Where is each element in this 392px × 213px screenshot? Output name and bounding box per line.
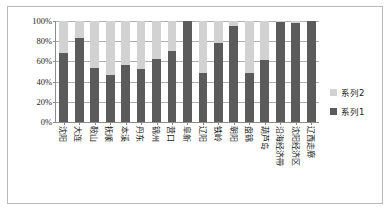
x-axis-label-slot: 营口 (164, 124, 180, 204)
bar-slot (133, 21, 148, 122)
legend-swatch-icon (330, 108, 337, 115)
bar-stack[interactable] (121, 21, 130, 122)
bar-segment-series1[interactable] (199, 73, 208, 122)
x-axis-label-slot: 沈阳经济区 (288, 124, 304, 204)
x-axis-tick-label: 大连 (73, 126, 84, 142)
bar-slot (195, 21, 210, 122)
bar-segment-series2[interactable] (137, 21, 146, 69)
bar-slot (149, 21, 164, 122)
x-axis-tick-label: 沿海经济带 (275, 126, 286, 166)
bar-segment-series1[interactable] (229, 26, 238, 122)
bar-segment-series1[interactable] (121, 65, 130, 122)
x-axis-labels: 沈阳大连鞍山抚顺本溪丹东锦州营口阜新辽阳铁岭朝阳盘锦葫芦岛沿海经济带沈阳经济区辽… (55, 124, 319, 204)
bar-segment-series2[interactable] (121, 21, 130, 65)
bar-stack[interactable] (90, 21, 99, 122)
bar-segment-series1[interactable] (214, 43, 223, 122)
bar-stack[interactable] (214, 21, 223, 122)
x-axis-tick-label: 鞍山 (88, 126, 99, 142)
bar-segment-series1[interactable] (183, 21, 192, 122)
bar-stack[interactable] (245, 21, 254, 122)
bar-slot (304, 21, 319, 122)
x-axis-label-slot: 辽阳 (195, 124, 211, 204)
legend-swatch-icon (330, 89, 337, 96)
bar-slot (164, 21, 179, 122)
bar-segment-series1[interactable] (245, 73, 254, 122)
bar-segment-series2[interactable] (90, 21, 99, 68)
x-axis-label-slot: 阜新 (179, 124, 195, 204)
legend-item[interactable]: 系列1 (330, 105, 386, 117)
bar-stack[interactable] (152, 21, 161, 122)
legend-label: 系列1 (341, 105, 364, 117)
y-axis-tick-label: 80% (36, 36, 52, 46)
bar-stack[interactable] (59, 21, 68, 122)
bar-segment-series1[interactable] (168, 51, 177, 122)
bar-segment-series1[interactable] (260, 60, 269, 122)
legend-item[interactable]: 系列2 (330, 86, 386, 98)
bar-segment-series1[interactable] (152, 59, 161, 122)
bar-segment-series2[interactable] (152, 21, 161, 59)
x-axis-label-slot: 沈阳 (55, 124, 71, 204)
bar-slot (288, 21, 303, 122)
bar-segment-series2[interactable] (260, 21, 269, 60)
bar-segment-series2[interactable] (59, 21, 68, 53)
x-axis-label-slot: 沿海经济带 (272, 124, 288, 204)
bar-slot (242, 21, 257, 122)
bar-slot (71, 21, 86, 122)
bar-stack[interactable] (183, 21, 192, 122)
bar-stack[interactable] (199, 21, 208, 122)
bar-segment-series1[interactable] (75, 38, 84, 122)
x-axis-label-slot: 锦州 (148, 124, 164, 204)
x-axis-tick-label: 沈阳经济区 (290, 126, 301, 166)
bar-segment-series1[interactable] (90, 68, 99, 122)
chart-container: 100%80%60%40%20%0% 沈阳大连鞍山抚顺本溪丹东锦州营口阜新辽阳铁… (7, 6, 383, 204)
bar-segment-series1[interactable] (59, 53, 68, 122)
x-axis-tick-label: 阜新 (182, 126, 193, 142)
x-axis-label-slot: 葫芦岛 (257, 124, 273, 204)
bar-slot (257, 21, 272, 122)
bar-segment-series1[interactable] (307, 21, 316, 122)
y-axis-tick-label: 0% (41, 117, 52, 127)
bar-segment-series1[interactable] (291, 23, 300, 122)
y-axis-tick-label: 40% (36, 77, 52, 87)
bar-slot (102, 21, 117, 122)
bar-segment-series1[interactable] (276, 22, 285, 122)
plot-area: 100%80%60%40%20%0% (55, 21, 319, 123)
bar-stack[interactable] (276, 21, 285, 122)
bar-slot (87, 21, 102, 122)
x-axis-label-slot: 大连 (71, 124, 87, 204)
bar-stack[interactable] (307, 21, 316, 122)
bar-segment-series1[interactable] (137, 69, 146, 122)
bar-stack[interactable] (168, 21, 177, 122)
bar-stack[interactable] (291, 21, 300, 122)
bar-segment-series2[interactable] (245, 21, 254, 73)
x-axis-tick-label: 本溪 (119, 126, 130, 142)
chart-legend: 系列2系列1 (330, 86, 386, 124)
legend-label: 系列2 (341, 86, 364, 98)
bar-stack[interactable] (229, 21, 238, 122)
x-axis-tick-label: 辽西走廊 (306, 126, 317, 158)
bar-segment-series2[interactable] (168, 21, 177, 51)
bar-slot (56, 21, 71, 122)
x-axis-tick-label: 辽阳 (197, 126, 208, 142)
x-axis-tick-label: 葫芦岛 (259, 126, 270, 150)
x-axis-label-slot: 本溪 (117, 124, 133, 204)
bar-slot (211, 21, 226, 122)
bar-segment-series2[interactable] (106, 21, 115, 75)
x-axis-label-slot: 盘锦 (241, 124, 257, 204)
bar-segment-series2[interactable] (75, 21, 84, 38)
bar-stack[interactable] (137, 21, 146, 122)
x-axis-tick-label: 盘锦 (244, 126, 255, 142)
bar-segment-series2[interactable] (214, 21, 223, 43)
y-axis-tick-label: 20% (36, 97, 52, 107)
bar-segment-series2[interactable] (199, 21, 208, 73)
x-axis-label-slot: 丹东 (133, 124, 149, 204)
bar-stack[interactable] (75, 21, 84, 122)
bar-stack[interactable] (106, 21, 115, 122)
x-axis-tick-label: 沈阳 (57, 126, 68, 142)
x-axis-label-slot: 朝阳 (226, 124, 242, 204)
x-axis-label-slot: 铁岭 (210, 124, 226, 204)
bar-series-group (56, 21, 319, 122)
bar-segment-series1[interactable] (106, 75, 115, 122)
bar-slot (273, 21, 288, 122)
bar-stack[interactable] (260, 21, 269, 122)
